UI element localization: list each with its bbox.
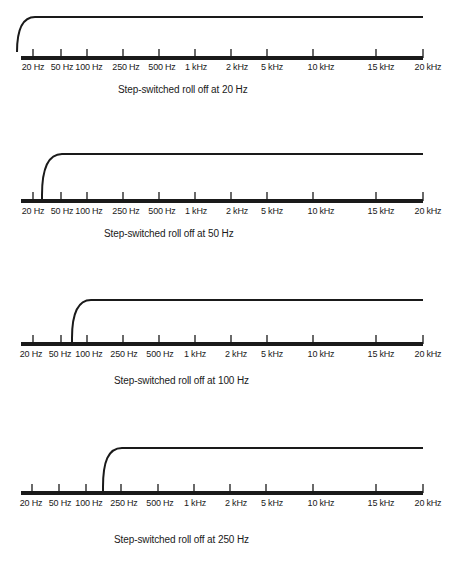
- tick-label-500hz: 500 Hz: [146, 498, 173, 508]
- tick-label-2khz: 2 kHz: [225, 498, 247, 508]
- tick-label-10khz: 10 kHz: [308, 498, 335, 508]
- response-curve-plot: [0, 0, 461, 564]
- panel-caption: Step-switched roll off at 250 Hz: [114, 534, 249, 545]
- tick-label-250hz: 250 Hz: [110, 498, 137, 508]
- tick-label-20khz: 20 kHz: [415, 498, 442, 508]
- rolloff-panel-250hz: 20 Hz 50 Hz 100 Hz 250 Hz 500 Hz 1 kHz 2…: [0, 0, 461, 564]
- tick-label-5khz: 5 kHz: [261, 498, 283, 508]
- tick-label-100hz: 100 Hz: [75, 498, 102, 508]
- tick-label-15khz: 15 kHz: [368, 498, 395, 508]
- tick-label-50hz: 50 Hz: [49, 498, 72, 508]
- tick-label-1khz: 1 kHz: [184, 498, 206, 508]
- frequency-response-curve: [103, 448, 423, 493]
- tick-label-20hz: 20 Hz: [20, 498, 43, 508]
